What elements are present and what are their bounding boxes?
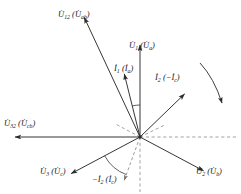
label-u3: U̇3 (U̇c)	[40, 167, 66, 176]
vector-i1	[124, 74, 140, 137]
stub-upleft	[115, 124, 140, 137]
origin-point	[138, 135, 141, 138]
label-u12: U̇12 (U̇ab)	[58, 10, 90, 19]
vector-ni2	[124, 137, 140, 180]
label-u2: U̇2 (U̇b)	[196, 167, 222, 176]
vector-u2	[140, 137, 204, 171]
vector-u3	[71, 137, 140, 174]
label-i1: İ1 (İa)	[114, 64, 133, 73]
arc-phi-lower	[105, 156, 127, 175]
reference-lines-group	[115, 124, 238, 192]
stub-upright	[140, 125, 165, 137]
phasor-diagram-figure: U̇12 (U̇ab) U̇1 (U̇a) İ1 (İa) İ2 (−İ…	[0, 0, 241, 194]
label-ni2: −İ2 (İc)	[92, 175, 117, 184]
label-u32: U̇32 (U̇cb)	[4, 119, 35, 128]
vector-i2	[140, 94, 185, 137]
vectors-group	[15, 17, 204, 180]
vector-u12	[84, 17, 140, 137]
arc-phi-upper	[132, 105, 140, 106]
label-u1: U̇1 (U̇a)	[129, 41, 155, 50]
diagram-canvas	[0, 0, 241, 194]
label-i2: İ2 (−İc)	[155, 73, 180, 82]
rotation-direction-arrow	[200, 63, 222, 103]
